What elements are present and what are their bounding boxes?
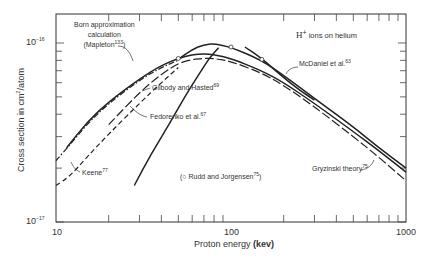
x-tick-label-10: 10 bbox=[52, 227, 62, 237]
x-tick-label-100: 100 bbox=[224, 227, 239, 237]
chart-canvas bbox=[0, 0, 431, 260]
mcdaniel-text: McDaniel et al. bbox=[299, 60, 345, 67]
x-tick-label-1000: 1000 bbox=[396, 227, 416, 237]
y-axis-ticks bbox=[56, 43, 64, 222]
born-line1: Born approximation bbox=[74, 20, 135, 30]
series-line-1 bbox=[56, 60, 178, 160]
x-axis-top-ticks bbox=[109, 14, 398, 21]
title-rest: ions on helium bbox=[307, 31, 357, 40]
y-axis-right-ticks bbox=[398, 43, 406, 222]
mcdaniel-ref: 63 bbox=[345, 58, 351, 64]
gryzinski-text: Gryzinski theory bbox=[312, 165, 362, 172]
rudd-label: (○ Rudd and Jorgensen75) bbox=[180, 173, 261, 180]
series-line-6 bbox=[245, 47, 315, 100]
fedorenko-label: Fedorenko et al.67 bbox=[150, 113, 206, 120]
y-axis-title-rest: /atom bbox=[16, 68, 26, 91]
y-tick-exp: −16 bbox=[36, 36, 44, 42]
mcdaniel-label: McDaniel et al.63 bbox=[299, 60, 351, 67]
y-tick-base: 10 bbox=[26, 216, 36, 226]
y-axis-title-sup: 2 bbox=[15, 91, 21, 94]
y-tick-exp: −17 bbox=[36, 215, 44, 221]
y-tick-label-1e-17: 10−17 bbox=[26, 216, 45, 226]
gilbody-label: Gilbody and Hasted69 bbox=[152, 84, 219, 91]
gilbody-text: Gilbody and Hasted bbox=[152, 84, 213, 91]
born-ref-name: (Mapleton bbox=[83, 41, 114, 48]
fedorenko-leader bbox=[130, 106, 147, 117]
fedorenko-ref: 67 bbox=[201, 111, 207, 117]
chart-title: H+ ions on helium bbox=[296, 30, 357, 40]
x-axis-title-text: Proton energy bbox=[194, 239, 253, 249]
circle-marker-icon bbox=[260, 57, 264, 61]
rudd-close: ) bbox=[259, 173, 261, 180]
x-axis-ticks bbox=[109, 215, 398, 222]
born-close: ) bbox=[123, 41, 125, 48]
y-tick-base: 10 bbox=[26, 37, 36, 47]
gryzinski-ref: 75 bbox=[362, 163, 368, 169]
gryzinski-label: Gryzinski theory75 bbox=[312, 165, 368, 172]
series-line-0 bbox=[67, 54, 406, 172]
circle-marker-icon bbox=[229, 45, 233, 49]
y-axis-title-text: Cross section in cm bbox=[16, 93, 26, 172]
y-axis-title: Cross section in cm2/atom bbox=[16, 55, 26, 185]
born-line3: (Mapleton133) bbox=[74, 40, 135, 50]
rudd-text: (○ Rudd and Jorgensen bbox=[180, 173, 254, 180]
y-tick-label-1e-16: 10−16 bbox=[26, 37, 45, 47]
born-label: Born approximation calculation (Mapleton… bbox=[74, 20, 135, 50]
gilbody-ref: 69 bbox=[213, 82, 219, 88]
mcdaniel-leader bbox=[286, 67, 298, 74]
born-line2: calculation bbox=[74, 30, 135, 40]
series-line-4 bbox=[178, 44, 406, 168]
circle-marker-icon bbox=[176, 56, 180, 60]
keene-text: Keene bbox=[82, 169, 102, 176]
fedorenko-text: Fedorenko et al. bbox=[150, 113, 201, 120]
x-axis-title: Proton energy (kev) bbox=[194, 239, 274, 249]
keene-ref: 77 bbox=[102, 167, 108, 173]
born-ref-num: 133 bbox=[115, 39, 123, 45]
keene-label: Keene77 bbox=[82, 169, 108, 176]
x-axis-unit: (kev) bbox=[253, 239, 274, 249]
